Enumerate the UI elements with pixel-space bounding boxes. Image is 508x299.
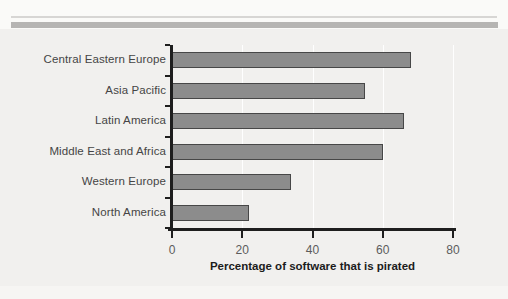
- scanned-page: 020406080 Central Eastern EuropeAsia Pac…: [0, 0, 508, 299]
- bar: [172, 144, 383, 160]
- category-label: Middle East and Africa: [6, 145, 166, 157]
- y-axis-tick: [165, 105, 170, 107]
- x-tick-label: 40: [293, 243, 333, 257]
- y-axis-tick: [165, 44, 170, 46]
- x-axis-tick: [452, 231, 454, 238]
- category-label: Asia Pacific: [6, 84, 166, 96]
- x-axis-tick: [382, 231, 384, 238]
- gridline: [453, 45, 454, 228]
- bar: [172, 113, 404, 129]
- x-tick-label: 60: [363, 243, 403, 257]
- gridline: [242, 45, 243, 228]
- top-band-rule: [11, 22, 498, 28]
- y-axis-line: [170, 45, 173, 231]
- x-axis-tick: [241, 231, 243, 238]
- x-tick-label: 20: [222, 243, 262, 257]
- x-axis-tick: [171, 231, 173, 238]
- x-tick-label: 0: [152, 243, 192, 257]
- gridline: [313, 45, 314, 228]
- y-axis-tick: [165, 136, 170, 138]
- x-tick-label: 80: [433, 243, 473, 257]
- gridline: [383, 45, 384, 228]
- y-axis-tick: [165, 166, 170, 168]
- category-label: Western Europe: [6, 175, 166, 187]
- y-axis-tick: [165, 75, 170, 77]
- category-label: Central Eastern Europe: [6, 53, 166, 65]
- bar: [172, 52, 411, 68]
- x-axis-tick: [312, 231, 314, 238]
- category-label: Latin America: [6, 114, 166, 126]
- y-axis-tick: [165, 197, 170, 199]
- x-axis-title: Percentage of software that is pirated: [172, 260, 453, 272]
- chart-plot-area: 020406080 Central Eastern EuropeAsia Pac…: [172, 45, 453, 228]
- bar: [172, 83, 365, 99]
- bar: [172, 205, 249, 221]
- category-label: North America: [6, 206, 166, 218]
- top-thin-rule: [11, 16, 497, 18]
- page-bottom-strip: [0, 286, 508, 299]
- bar: [172, 174, 291, 190]
